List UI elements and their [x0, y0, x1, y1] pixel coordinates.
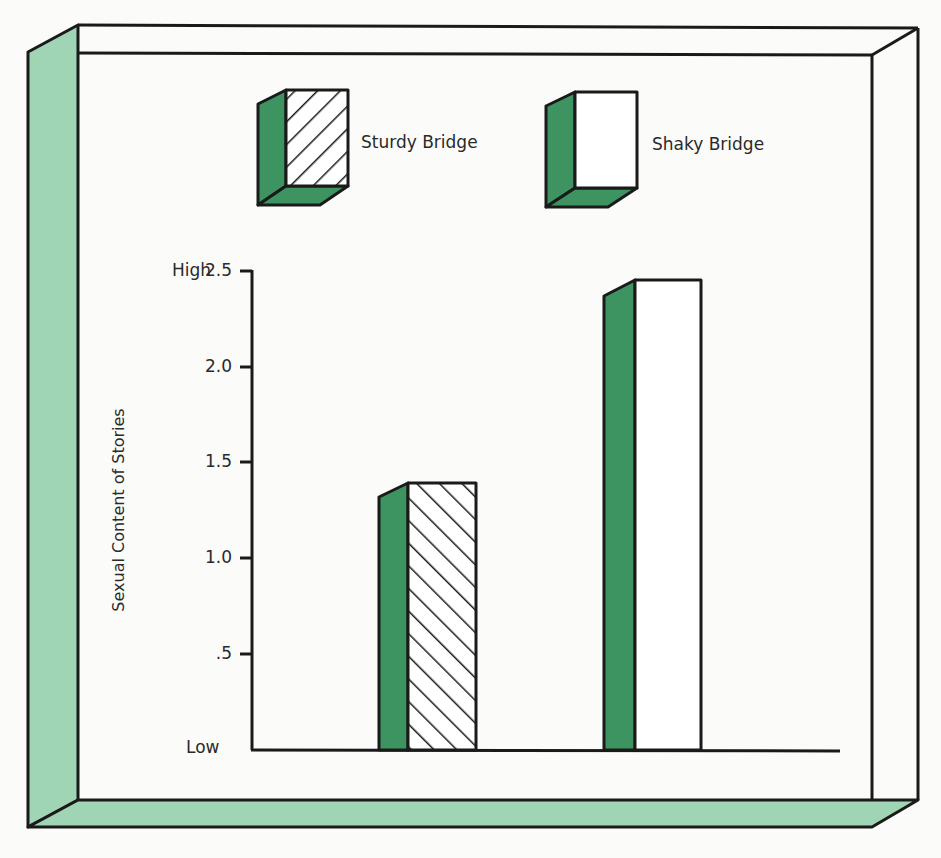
legend-label-shaky: Shaky Bridge: [652, 134, 764, 154]
bar-sturdy-bridge: [379, 483, 476, 750]
legend-swatch-shaky: [546, 92, 637, 207]
bar-shaky-bridge: [604, 280, 701, 750]
x-axis: [251, 750, 840, 751]
y-axis-low-label: Low: [186, 737, 219, 757]
y-tick-2-5: 2.5: [172, 260, 232, 280]
y-axis-title: Sexual Content of Stories: [109, 408, 128, 611]
legend-label-sturdy: Sturdy Bridge: [361, 132, 478, 152]
y-tick-0-5: .5: [172, 643, 232, 663]
legend-swatch-sturdy: [258, 90, 348, 205]
y-tick-1-5: 1.5: [172, 451, 232, 471]
y-tick-1-0: 1.0: [172, 547, 232, 567]
chart-canvas: [0, 0, 941, 858]
y-tick-2-0: 2.0: [172, 356, 232, 376]
y-axis: [240, 270, 252, 750]
